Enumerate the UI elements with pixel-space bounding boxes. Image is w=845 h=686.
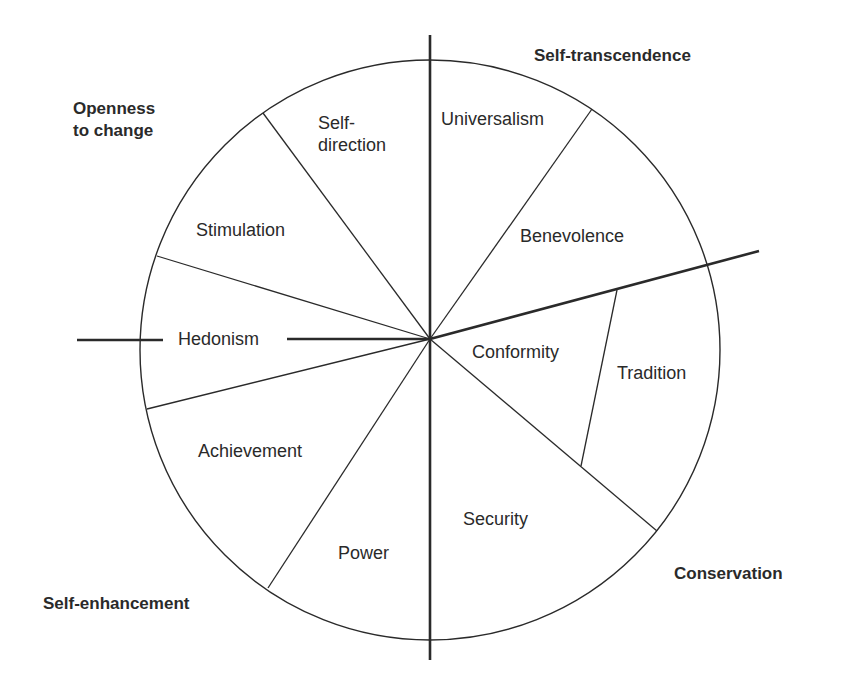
- value-label-benevolence: Benevolence: [520, 225, 624, 247]
- divider-universalism-benevolence: [430, 109, 592, 339]
- value-label-self-direction-line1: Self-: [318, 112, 386, 134]
- value-label-achievement: Achievement: [198, 440, 302, 462]
- value-label-universalism: Universalism: [441, 108, 544, 130]
- value-label-tradition: Tradition: [617, 362, 686, 384]
- value-label-self-direction: Self- direction: [318, 112, 386, 156]
- divider-conformity-tradition: [581, 290, 617, 466]
- value-label-hedonism: Hedonism: [178, 328, 259, 350]
- transcendence-conservation-axis: [430, 251, 759, 339]
- group-label-self-enhancement: Self-enhancement: [43, 593, 189, 615]
- group-label-openness: Openness to change: [73, 98, 155, 142]
- group-label-openness-line1: Openness: [73, 98, 155, 120]
- value-label-security: Security: [463, 508, 528, 530]
- value-label-self-direction-line2: direction: [318, 134, 386, 156]
- group-label-openness-line2: to change: [73, 120, 155, 142]
- divider-stimulation-hedonism: [157, 256, 430, 339]
- value-label-stimulation: Stimulation: [196, 219, 285, 241]
- group-label-self-transcendence: Self-transcendence: [534, 45, 691, 67]
- group-label-conservation: Conservation: [674, 563, 783, 585]
- value-label-power: Power: [338, 542, 389, 564]
- value-label-conformity: Conformity: [472, 341, 559, 363]
